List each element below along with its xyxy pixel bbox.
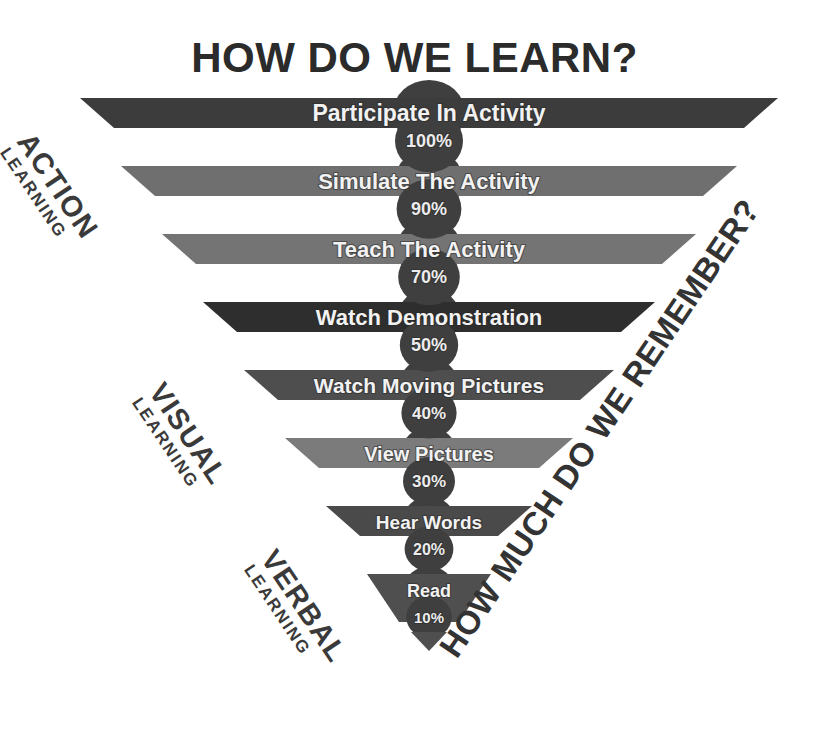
bar-label: Participate In Activity — [312, 100, 545, 126]
bar-label: Teach The Activity — [333, 237, 526, 262]
bar-label: Simulate The Activity — [318, 169, 540, 194]
bar-percentage: 90% — [411, 199, 447, 219]
bar-percentage: 20% — [413, 541, 445, 558]
bar-percentage: 30% — [412, 472, 446, 491]
bar-percentage: 70% — [411, 267, 447, 287]
bar-percentage: 10% — [414, 609, 444, 626]
bar-percentage: 40% — [412, 404, 446, 423]
bar-label: Read — [407, 581, 451, 601]
bar-label: Watch Moving Pictures — [314, 374, 544, 397]
bar-label: Watch Demonstration — [316, 305, 543, 330]
learning-pyramid-chart: Participate In Activity100%Simulate The … — [0, 0, 829, 734]
bar-label: View Pictures — [364, 443, 494, 465]
bar-percentage: 100% — [406, 131, 452, 151]
bar-label: Hear Words — [376, 512, 482, 533]
bar-percentage: 50% — [411, 335, 447, 355]
infographic-canvas: HOW DO WE LEARN? Participate In Activity… — [0, 0, 829, 734]
